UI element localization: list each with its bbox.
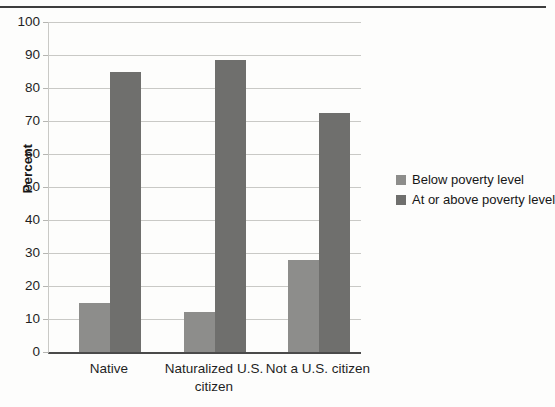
legend-item-1: At or above poverty level: [396, 192, 555, 207]
bar-below-poverty-level-1: [184, 312, 215, 352]
y-tick-mark-90: [43, 55, 48, 56]
x-tick-label-2: Not a U.S. citizen: [260, 360, 376, 378]
y-tick-label-50: 50: [6, 179, 40, 195]
y-tick-mark-10: [43, 319, 48, 320]
y-tick-mark-20: [43, 286, 48, 287]
y-tick-mark-80: [43, 88, 48, 89]
y-tick-mark-60: [43, 154, 48, 155]
x-tick-label-1: Naturalized U.S. citizen: [156, 360, 272, 396]
y-tick-label-70: 70: [6, 113, 40, 129]
bar-group-0: [79, 72, 141, 353]
y-tick-label-80: 80: [6, 80, 40, 96]
bar-below-poverty-level-2: [288, 260, 319, 352]
bar-below-poverty-level-0: [79, 303, 110, 353]
legend-swatch-icon: [396, 195, 406, 205]
y-tick-mark-30: [43, 253, 48, 254]
legend-label-1: At or above poverty level: [412, 192, 555, 207]
y-tick-mark-70: [43, 121, 48, 122]
y-tick-label-40: 40: [6, 212, 40, 228]
y-tick-label-100: 100: [6, 14, 40, 30]
y-tick-label-0: 0: [6, 344, 40, 360]
legend-swatch-icon: [396, 175, 406, 185]
y-tick-label-90: 90: [6, 47, 40, 63]
legend: Below poverty levelAt or above poverty l…: [396, 172, 555, 207]
y-tick-label-10: 10: [6, 311, 40, 327]
gridline-90: [49, 55, 361, 56]
legend-item-0: Below poverty level: [396, 172, 555, 187]
y-tick-mark-0: [43, 352, 48, 353]
bar-at-or-above-poverty-level-1: [215, 60, 246, 352]
x-tick-label-0: Native: [51, 360, 167, 378]
legend-label-0: Below poverty level: [412, 172, 524, 187]
bar-at-or-above-poverty-level-2: [319, 113, 350, 352]
gridline-100: [49, 22, 361, 23]
y-tick-mark-100: [43, 22, 48, 23]
y-tick-mark-40: [43, 220, 48, 221]
plot-area: [48, 22, 361, 354]
y-tick-mark-50: [43, 187, 48, 188]
y-tick-label-60: 60: [6, 146, 40, 162]
bar-group-1: [184, 60, 246, 352]
bar-at-or-above-poverty-level-0: [110, 72, 141, 353]
y-tick-label-30: 30: [6, 245, 40, 261]
y-tick-label-20: 20: [6, 278, 40, 294]
bar-group-2: [288, 113, 350, 352]
